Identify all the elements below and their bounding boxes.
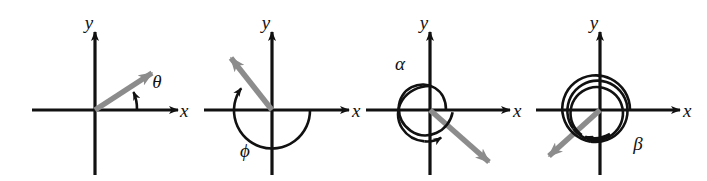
angles-diagram-canvas: θ x y ϕ x y α x y	[0, 0, 707, 181]
y-axis-label-panel-phi: y	[260, 12, 271, 33]
angle-label-theta: θ	[152, 71, 161, 92]
x-axis-label-panel-beta: x	[682, 100, 692, 121]
angle-label-phi: ϕ	[240, 140, 250, 161]
angle-label-alpha: α	[395, 53, 406, 74]
angle-label-beta: β	[632, 133, 643, 154]
x-axis-label-panel-phi: x	[351, 100, 361, 121]
y-axis-label-panel-theta: y	[83, 12, 94, 33]
y-axis-label-panel-beta: y	[588, 12, 599, 33]
x-axis-label-panel-alpha: x	[512, 100, 522, 121]
angles-figure: θ x y ϕ x y α x y	[0, 0, 707, 181]
y-axis-label-panel-alpha: y	[418, 12, 429, 33]
x-axis-label-panel-theta: x	[179, 100, 189, 121]
